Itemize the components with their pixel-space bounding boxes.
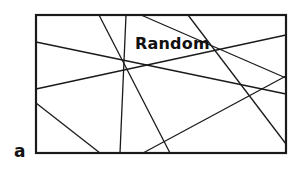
random-line-8 xyxy=(143,76,286,153)
random-line-3 xyxy=(36,103,100,153)
random-line-5 xyxy=(120,15,126,153)
diagram-title: Random xyxy=(135,34,210,53)
panel-label: a xyxy=(14,141,25,161)
random-lines-diagram xyxy=(0,0,302,171)
